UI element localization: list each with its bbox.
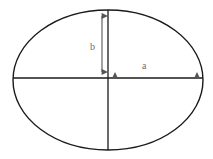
ellipse-diagram: b a [0,0,213,159]
semi-major-axis-label: a [142,61,146,71]
ellipse-diagram-svg [0,0,213,159]
semi-minor-axis-label: b [90,42,95,52]
